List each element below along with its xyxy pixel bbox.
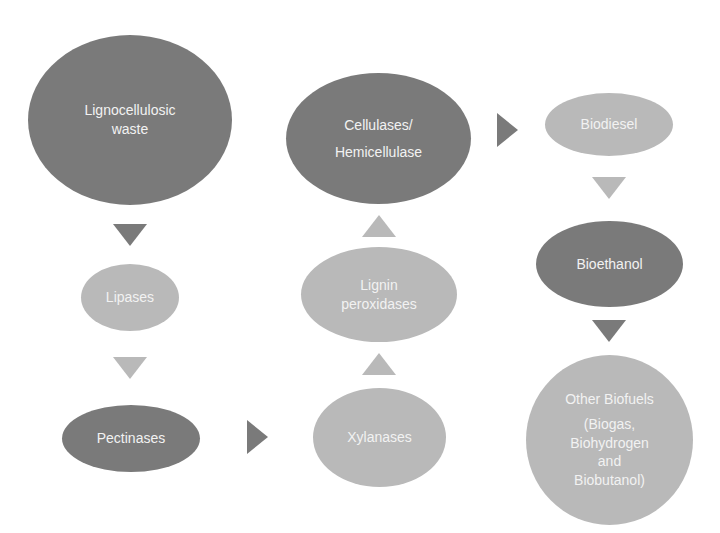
node-label-line: Biodiesel: [581, 115, 638, 134]
node-label-line: Hemicellulase: [335, 139, 422, 166]
node-label-line: peroxidases: [341, 295, 417, 314]
node-lipases: Lipases: [81, 264, 179, 331]
node-label-line: Xylanases: [347, 428, 412, 447]
node-label-line: Lipases: [106, 288, 154, 307]
node-label-line: Pectinases: [97, 429, 165, 448]
node-label-line: Cellulases/: [344, 112, 412, 139]
arrow-up-icon: [362, 215, 396, 237]
node-lignocellulosic-waste: Lignocellulosic waste: [28, 35, 232, 205]
node-label-line: Other Biofuels: [565, 390, 654, 409]
arrow-right-icon: [497, 113, 518, 147]
node-label-line: Bioethanol: [576, 255, 642, 274]
node-xylanases: Xylanases: [313, 388, 446, 487]
node-label-line: waste: [112, 120, 149, 139]
arrow-down-icon: [592, 177, 626, 199]
node-label-line: and: [598, 452, 621, 471]
arrow-down-icon: [592, 320, 626, 342]
node-biodiesel: Biodiesel: [545, 93, 673, 156]
node-label-line: Lignocellulosic: [84, 101, 175, 120]
node-bioethanol: Bioethanol: [536, 221, 683, 307]
node-label-line: (Biogas,: [584, 415, 635, 434]
node-other-biofuels: Other Biofuels (Biogas, Biohydrogen and …: [526, 355, 693, 525]
node-pectinases: Pectinases: [62, 405, 200, 472]
arrow-down-icon: [113, 224, 147, 246]
node-label-line: Lignin: [360, 276, 397, 295]
node-lignin-peroxidases: Lignin peroxidases: [301, 247, 457, 342]
node-cellulases-hemicellulase: Cellulases/ Hemicellulase: [286, 73, 471, 204]
node-label-line: Biobutanol): [574, 471, 645, 490]
arrow-right-icon: [247, 420, 268, 454]
arrow-down-icon: [113, 357, 147, 379]
arrow-up-icon: [362, 353, 396, 375]
node-label-line: Biohydrogen: [570, 434, 649, 453]
